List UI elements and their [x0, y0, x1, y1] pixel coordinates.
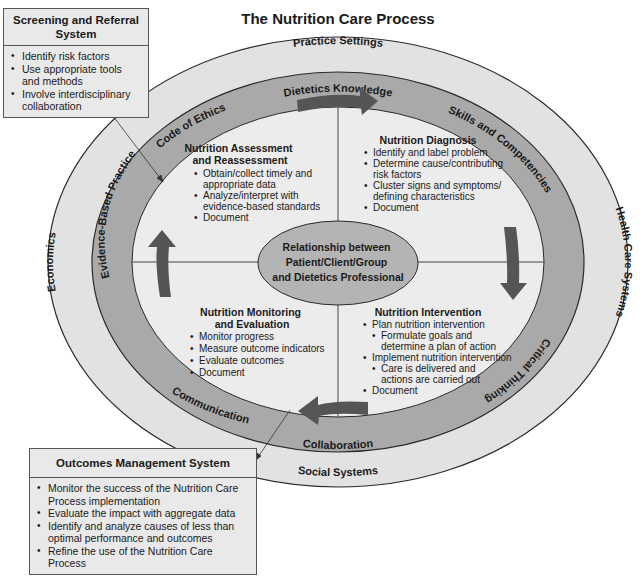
- svg-text:•: •: [194, 190, 198, 201]
- intervention-title: Nutrition Intervention: [375, 306, 482, 318]
- svg-text:•: •: [364, 158, 368, 169]
- outcomes-box-list: Monitor the success of the Nutrition Car…: [30, 478, 256, 574]
- diagram-title: The Nutrition Care Process: [241, 10, 434, 27]
- svg-text:Measure outcome indicators: Measure outcome indicators: [199, 343, 325, 354]
- svg-text:actions are carried out: actions are carried out: [381, 374, 480, 385]
- svg-text:•: •: [364, 202, 368, 213]
- svg-text:appropriate data: appropriate data: [203, 179, 276, 190]
- svg-text:•: •: [190, 355, 194, 366]
- screening-box-list: Identify risk factors Use appropriate to…: [4, 46, 148, 117]
- svg-text:•: •: [364, 147, 368, 158]
- list-item: Refine the use of the Nutrition Care Pro…: [48, 545, 250, 570]
- monitoring-title: Nutrition Monitoring and Evaluation: [200, 306, 304, 330]
- svg-text:Implement nutrition interventi: Implement nutrition intervention: [372, 352, 512, 363]
- svg-text:•: •: [372, 330, 376, 341]
- screening-referral-box: Screening and Referral System Identify r…: [3, 8, 149, 118]
- svg-text:evidence-based standards: evidence-based standards: [203, 201, 320, 212]
- svg-text:•: •: [190, 331, 194, 342]
- svg-text:defining characteristics: defining characteristics: [373, 191, 475, 202]
- svg-text:•: •: [363, 385, 367, 396]
- screening-box-title: Screening and Referral System: [4, 9, 148, 46]
- list-item: Monitor the success of the Nutrition Car…: [48, 482, 250, 507]
- outcomes-management-box: Outcomes Management System Monitor the s…: [29, 448, 257, 575]
- svg-text:risk factors: risk factors: [373, 169, 421, 180]
- svg-text:•: •: [194, 212, 198, 223]
- list-item: Identify risk factors: [22, 50, 142, 63]
- svg-text:Document: Document: [373, 202, 419, 213]
- svg-text:Identify and label problem: Identify and label problem: [373, 147, 488, 158]
- outcomes-box-title: Outcomes Management System: [30, 449, 256, 478]
- svg-text:Care is delivered and: Care is delivered and: [381, 363, 476, 374]
- diagnosis-title: Nutrition Diagnosis: [380, 134, 477, 146]
- svg-text:•: •: [363, 319, 367, 330]
- list-item: Evaluate the impact with aggregate data: [48, 507, 250, 520]
- svg-text:•: •: [363, 352, 367, 363]
- svg-text:Obtain/collect timely and: Obtain/collect timely and: [203, 168, 312, 179]
- svg-text:Document: Document: [372, 385, 418, 396]
- svg-text:Cluster signs and symptoms/: Cluster signs and symptoms/: [373, 180, 502, 191]
- list-item: Use appropriate tools and methods: [22, 63, 142, 88]
- svg-text:Formulate goals and: Formulate goals and: [381, 330, 472, 341]
- center-text: Relationship between Patient/Client/Grou…: [272, 241, 403, 283]
- svg-text:Analyze/interpret with: Analyze/interpret with: [203, 190, 299, 201]
- svg-text:•: •: [364, 180, 368, 191]
- list-item: Involve interdisciplinary collaboration: [22, 88, 142, 113]
- svg-text:•: •: [190, 343, 194, 354]
- svg-text:Document: Document: [199, 367, 245, 378]
- svg-text:Document: Document: [203, 212, 249, 223]
- svg-text:Monitor progress: Monitor progress: [199, 331, 274, 342]
- svg-text:•: •: [372, 363, 376, 374]
- svg-text:•: •: [190, 367, 194, 378]
- svg-text:Evaluate outcomes: Evaluate outcomes: [199, 355, 284, 366]
- svg-text:determine a plan of action: determine a plan of action: [381, 341, 496, 352]
- assessment-title: Nutrition Assessment and Reassessment: [184, 142, 295, 166]
- list-item: Identify and analyze causes of less than…: [48, 520, 250, 545]
- ring-label-collaboration: Collaboration: [302, 437, 374, 451]
- svg-text:Determine cause/contributing: Determine cause/contributing: [373, 158, 503, 169]
- svg-text:Plan nutrition intervention: Plan nutrition intervention: [372, 319, 485, 330]
- svg-text:•: •: [194, 168, 198, 179]
